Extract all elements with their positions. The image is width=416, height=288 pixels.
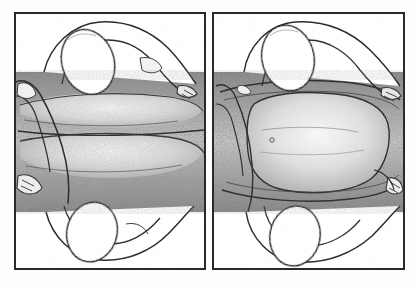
- illustration-canvas: [0, 0, 416, 288]
- right-panel: [213, 13, 404, 270]
- left-panel: [15, 13, 205, 269]
- illustration-plate: [0, 0, 416, 288]
